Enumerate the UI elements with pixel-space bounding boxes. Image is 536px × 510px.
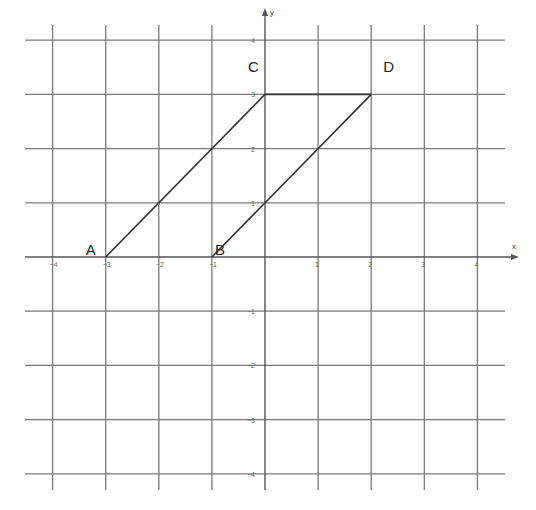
x-tick-label: −2 (156, 261, 164, 268)
x-tick-label: −1 (209, 261, 217, 268)
x-tick-label: 2 (368, 261, 372, 268)
segment-bd (212, 94, 371, 257)
coordinate-plane: xy −4−3−2−112344321−1−2−3−4 ABCD (0, 0, 536, 510)
x-tick-label: −3 (103, 261, 111, 268)
y-tick-label: 2 (251, 146, 255, 153)
x-tick-label: 1 (315, 261, 319, 268)
y-tick-label: −2 (247, 362, 255, 369)
x-axis-arrow-icon (511, 254, 519, 260)
x-axis-label: x (512, 242, 516, 251)
point-label-b: B (215, 241, 225, 258)
y-tick-label: −3 (247, 417, 255, 424)
point-label-c: C (248, 58, 259, 75)
y-tick-label: −1 (247, 308, 255, 315)
y-tick-label: 1 (251, 200, 255, 207)
point-label-a: A (86, 241, 96, 258)
point-label-d: D (383, 58, 394, 75)
x-tick-label: 4 (474, 261, 478, 268)
x-tick-label: −4 (50, 261, 58, 268)
y-tick-label: 4 (251, 37, 255, 44)
y-tick-label: −4 (247, 471, 255, 478)
axes: xy (25, 8, 519, 490)
segment-ac (106, 94, 265, 257)
y-axis-arrow-icon (262, 8, 268, 16)
shape-segments (106, 94, 372, 257)
x-tick-label: 3 (421, 261, 425, 268)
y-tick-label: 3 (251, 91, 255, 98)
y-axis-label: y (270, 8, 274, 17)
